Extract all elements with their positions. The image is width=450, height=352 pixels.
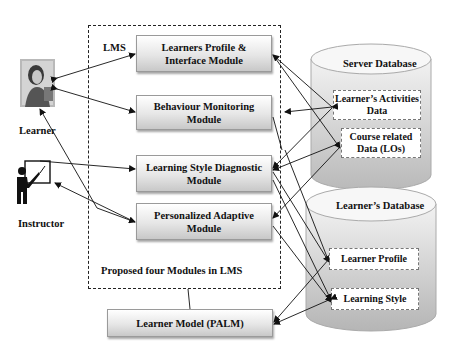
connector-arrows	[0, 0, 450, 352]
